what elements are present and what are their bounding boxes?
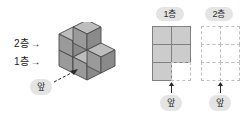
front-label-1f-text: 앞 bbox=[167, 99, 175, 108]
level-label-2f: 2층 → bbox=[14, 39, 41, 49]
grid-cell[interactable] bbox=[220, 62, 240, 81]
floor-grid-1f bbox=[152, 26, 190, 80]
grid-cell[interactable] bbox=[152, 62, 172, 81]
grid-cell[interactable] bbox=[152, 44, 172, 63]
front-pointer-arrow bbox=[53, 68, 79, 84]
front-label-1f: 앞 bbox=[160, 95, 182, 111]
floor-title-2f-text: 2층 bbox=[212, 10, 225, 19]
grid-cell[interactable] bbox=[220, 26, 240, 45]
floor-title-2f: 2층 bbox=[205, 7, 233, 21]
grid-cell[interactable] bbox=[171, 26, 191, 45]
front-label-2f-text: 앞 bbox=[216, 99, 224, 108]
grid-cell[interactable] bbox=[220, 44, 240, 63]
floor-grid-2f bbox=[201, 26, 239, 80]
up-arrow-icon-2f bbox=[217, 82, 224, 94]
grid-cell[interactable] bbox=[171, 44, 191, 63]
level-label-2f-text: 2층 bbox=[14, 39, 29, 49]
floor-title-1f-text: 1층 bbox=[163, 10, 176, 19]
front-label-2f: 앞 bbox=[209, 95, 231, 111]
arrow-right-icon: → bbox=[31, 39, 41, 49]
grid-cell[interactable] bbox=[201, 62, 221, 81]
up-arrow-icon-1f bbox=[168, 82, 175, 94]
level-label-1f-text: 1층 bbox=[14, 57, 29, 67]
grid-cell[interactable] bbox=[171, 62, 191, 81]
front-label-left-text: 앞 bbox=[37, 83, 45, 92]
grid-cell[interactable] bbox=[201, 44, 221, 63]
arrow-right-icon: → bbox=[31, 57, 41, 67]
worksheet-canvas: 2층 → 1층 → bbox=[0, 0, 242, 117]
grid-cell[interactable] bbox=[201, 26, 221, 45]
floor-title-1f: 1층 bbox=[156, 7, 184, 21]
front-label-left: 앞 bbox=[30, 79, 52, 95]
level-label-1f: 1층 → bbox=[14, 57, 41, 67]
grid-cell[interactable] bbox=[152, 26, 172, 45]
